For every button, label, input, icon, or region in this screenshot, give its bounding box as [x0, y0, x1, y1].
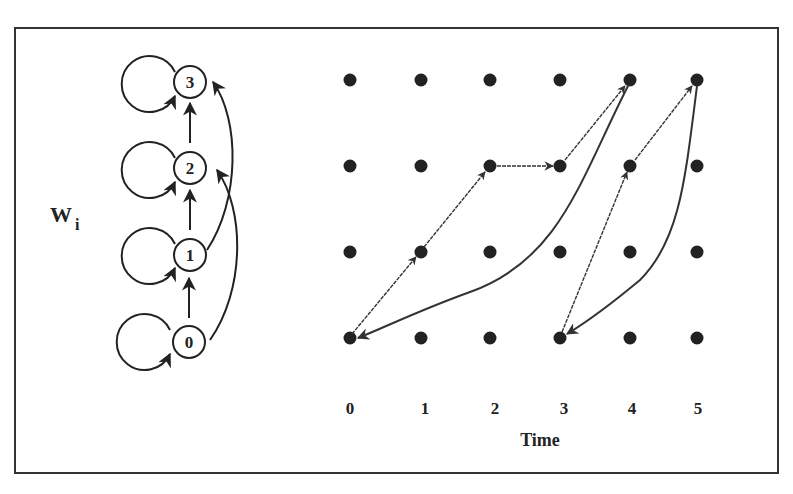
- self-loop-1: [122, 228, 175, 284]
- path-t0-t1: [352, 257, 416, 334]
- path-t3-t4: [565, 86, 625, 160]
- state-label-0: 0: [185, 333, 194, 352]
- state-label-3: 3: [186, 73, 195, 92]
- svg-text:5: 5: [694, 399, 703, 418]
- reset-t4-t0: [358, 86, 628, 338]
- edge-0-2: [210, 170, 237, 340]
- state-label-1: 1: [186, 246, 195, 265]
- state-transition-figure: 3 2 1 0 Wi 0 1 2 3 4 5 Time: [0, 0, 793, 494]
- svg-text:3: 3: [560, 399, 569, 418]
- trajectory-edges: [352, 86, 697, 338]
- figure-frame: [15, 28, 778, 473]
- reset-t5-t3: [567, 86, 697, 334]
- svg-text:1: 1: [421, 399, 430, 418]
- state-label-2: 2: [186, 159, 195, 178]
- path-t1-t2: [424, 172, 485, 247]
- state-diagram: [117, 56, 237, 370]
- time-axis-ticks: 0 1 2 3 4 5: [346, 399, 703, 418]
- x-axis-label: Time: [520, 430, 560, 450]
- edge-1-3: [207, 82, 233, 250]
- path-t3-t4-b: [562, 172, 627, 332]
- grid-points: [344, 74, 704, 345]
- svg-text:2: 2: [491, 399, 500, 418]
- svg-text:4: 4: [628, 399, 637, 418]
- svg-text:0: 0: [346, 399, 355, 418]
- self-loop-3: [122, 56, 175, 112]
- path-t4-t5: [635, 86, 692, 160]
- self-loop-0: [117, 314, 170, 370]
- wi-label: Wi: [50, 202, 80, 233]
- self-loop-2: [122, 142, 175, 198]
